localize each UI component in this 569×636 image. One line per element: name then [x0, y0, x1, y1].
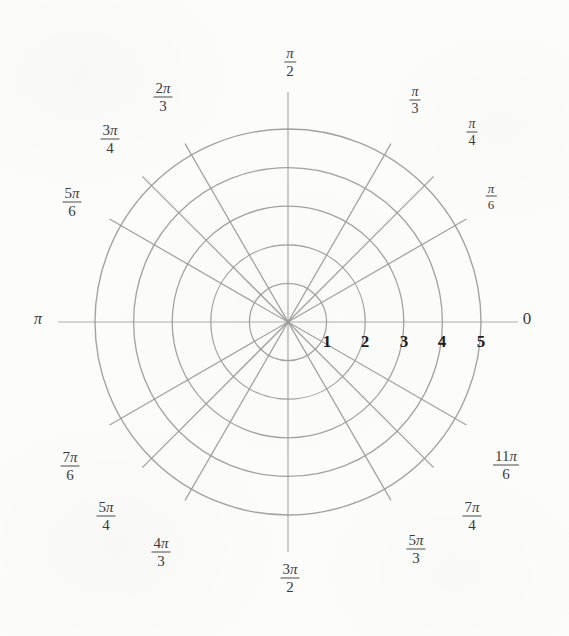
fraction-denominator: 3: [153, 98, 172, 114]
fraction: 5π3: [406, 533, 425, 566]
angle-label-three-pi-over-2: 3π2: [280, 562, 299, 595]
fraction-denominator: 6: [493, 466, 519, 482]
fraction-numerator: 5π: [96, 500, 115, 517]
fraction-numerator: π: [409, 85, 420, 101]
polar-grid-graphic: [0, 0, 569, 636]
fraction-denominator: 2: [280, 579, 299, 595]
fraction-numerator: 3π: [100, 123, 119, 140]
angle-label-pi-over-3: π3: [409, 85, 420, 116]
fraction: π4: [466, 117, 477, 148]
fraction: 3π4: [100, 123, 119, 156]
fraction: π3: [409, 85, 420, 116]
angle-label-five-pi-over-4: 5π4: [96, 500, 115, 533]
fraction-denominator: 3: [406, 550, 425, 566]
angle-label-five-pi-over-6: 5π6: [62, 186, 81, 219]
fraction-numerator: 3π: [280, 562, 299, 579]
fraction: 7π4: [462, 500, 481, 533]
fraction: π6: [486, 182, 497, 211]
fraction-numerator: π: [284, 46, 296, 63]
radial-tick-label-3: 3: [400, 333, 409, 350]
fraction: 11π6: [493, 449, 519, 482]
fraction-numerator: 7π: [462, 500, 481, 517]
angle-label-four-pi-over-3: 4π3: [151, 536, 170, 569]
fraction-denominator: 6: [62, 203, 81, 219]
fraction: 5π6: [62, 186, 81, 219]
fraction-denominator: 3: [151, 553, 170, 569]
fraction-denominator: 4: [466, 133, 477, 148]
angle-label-pi: π: [34, 311, 42, 327]
fraction-numerator: π: [486, 182, 497, 197]
fraction-denominator: 3: [409, 101, 420, 116]
fraction-denominator: 4: [462, 517, 481, 533]
angle-label-zero: 0: [523, 310, 532, 327]
fraction: 5π4: [96, 500, 115, 533]
fraction-denominator: 6: [60, 467, 79, 483]
angular-spokes-group: [58, 92, 518, 552]
angle-label-seven-pi-over-6: 7π6: [60, 450, 79, 483]
angle-label-pi-over-2: π2: [284, 46, 296, 79]
angle-label-three-pi-over-4: 3π4: [100, 123, 119, 156]
angle-label-seven-pi-over-4: 7π4: [462, 500, 481, 533]
fraction-numerator: 2π: [153, 81, 172, 98]
radial-tick-label-1: 1: [323, 333, 332, 350]
angle-label-pi-over-6: π6: [486, 182, 497, 211]
angle-label-text: π: [34, 310, 42, 327]
fraction: 3π2: [280, 562, 299, 595]
polar-grid-figure: 0ππ6π4π3π22π33π45π67π65π44π33π25π37π411π…: [0, 0, 569, 636]
radial-tick-label-5: 5: [477, 333, 486, 350]
angle-label-eleven-pi-over-6: 11π6: [493, 449, 519, 482]
fraction-denominator: 4: [100, 140, 119, 156]
fraction: 2π3: [153, 81, 172, 114]
fraction: π2: [284, 46, 296, 79]
radial-tick-label-4: 4: [438, 333, 447, 350]
fraction-numerator: 11π: [493, 449, 519, 466]
fraction-numerator: 7π: [60, 450, 79, 467]
fraction-numerator: π: [466, 117, 477, 133]
angle-label-two-pi-over-3: 2π3: [153, 81, 172, 114]
fraction-numerator: 5π: [406, 533, 425, 550]
fraction-numerator: 4π: [151, 536, 170, 553]
fraction-denominator: 6: [486, 197, 497, 211]
fraction: 4π3: [151, 536, 170, 569]
radial-tick-label-2: 2: [361, 333, 370, 350]
fraction-numerator: 5π: [62, 186, 81, 203]
fraction-denominator: 4: [96, 517, 115, 533]
angle-label-pi-over-4: π4: [466, 117, 477, 148]
fraction-denominator: 2: [284, 63, 296, 79]
angle-label-five-pi-over-3: 5π3: [406, 533, 425, 566]
fraction: 7π6: [60, 450, 79, 483]
